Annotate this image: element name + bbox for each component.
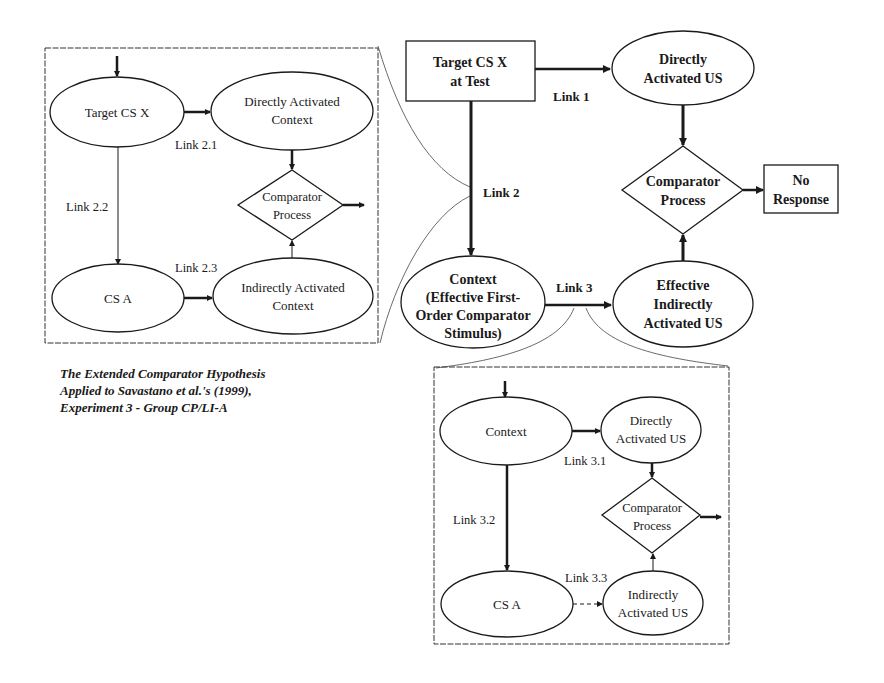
svg-text:Indirectly Activated: Indirectly Activated [241, 280, 345, 295]
svg-text:Process: Process [273, 208, 311, 222]
svg-text:Comparator: Comparator [622, 501, 683, 515]
svg-text:Indirectly: Indirectly [628, 587, 679, 602]
svg-text:Order Comparator: Order Comparator [415, 308, 530, 323]
svg-text:Indirectly: Indirectly [654, 297, 713, 312]
svg-text:CS A: CS A [493, 597, 521, 612]
node-comparator-process: Comparator Process [622, 146, 743, 234]
node-effective-indirectly-activated-us: Effective Indirectly Activated US [613, 261, 753, 347]
link-3-1-label: Link 3.1 [564, 454, 606, 468]
link3-inset: Context Directly Activated US Link 3.1 C… [434, 367, 729, 644]
node-directly-activated-context: Directly Activated Context [211, 72, 373, 150]
figure-caption: The Extended Comparator Hypothesis Appli… [60, 365, 360, 416]
link-3-3-label: Link 3.3 [565, 571, 607, 585]
node-indirectly-activated-context: Indirectly Activated Context [213, 258, 373, 334]
svg-text:Target CS X: Target CS X [85, 105, 150, 120]
svg-text:Directly: Directly [630, 413, 673, 428]
svg-text:Comparator: Comparator [262, 190, 323, 204]
svg-text:Stimulus): Stimulus) [444, 326, 502, 342]
link-2-3-label: Link 2.3 [175, 261, 217, 275]
caption-line-3: Experiment 3 - Group CP/LI-A [60, 399, 360, 416]
svg-text:Activated US: Activated US [618, 605, 688, 620]
link3-inset-frame [434, 367, 729, 644]
node-directly-activated-us-inset3: Directly Activated US [601, 397, 701, 463]
link-1-label: Link 1 [553, 89, 590, 104]
node-target-cs-x-at-test: Target CS X at Test [406, 41, 535, 101]
link-3-label: Link 3 [556, 280, 593, 295]
caption-line-2: Applied to Savastano et al.'s (1999), [60, 382, 360, 399]
svg-text:Effective: Effective [657, 278, 710, 293]
node-cs-a-inset3: CS A [441, 571, 573, 637]
svg-text:No: No [792, 173, 809, 188]
node-target-cs-x-inset: Target CS X [50, 77, 184, 147]
svg-text:(Effective First-: (Effective First- [426, 290, 521, 306]
svg-text:CS A: CS A [104, 291, 132, 306]
caption-line-1: The Extended Comparator Hypothesis [60, 365, 360, 382]
svg-text:at Test: at Test [450, 74, 490, 89]
node-indirectly-activated-us-inset3: Indirectly Activated US [603, 571, 703, 635]
svg-text:Context: Context [449, 272, 497, 287]
node-no-response: No Response [764, 165, 838, 213]
svg-text:Response: Response [773, 192, 829, 207]
svg-text:Process: Process [633, 519, 671, 533]
node-context-inset3: Context [440, 397, 572, 465]
svg-text:Context: Context [271, 112, 313, 127]
svg-text:Activated US: Activated US [616, 431, 686, 446]
svg-text:Context: Context [272, 298, 314, 313]
link-2-1-label: Link 2.1 [175, 138, 217, 152]
node-directly-activated-us: Directly Activated US [612, 31, 754, 105]
node-comparator-process-inset3: Comparator Process [602, 478, 700, 553]
svg-text:Context: Context [485, 424, 527, 439]
svg-text:Target CS X: Target CS X [433, 55, 507, 70]
svg-text:Activated US: Activated US [644, 71, 723, 86]
link-3-2-label: Link 3.2 [453, 513, 495, 527]
node-comparator-process-inset2: Comparator Process [238, 170, 343, 240]
node-cs-a-inset2: CS A [52, 264, 184, 332]
link2-inset: Target CS X Directly Activated Context L… [45, 48, 378, 343]
comparator-diagram: Target CS X Directly Activated Context L… [0, 0, 884, 683]
svg-text:Comparator: Comparator [646, 174, 721, 189]
link-2-2-label: Link 2.2 [66, 200, 108, 214]
svg-text:Directly Activated: Directly Activated [244, 94, 340, 109]
main-diagram: Target CS X at Test Directly Activated U… [401, 31, 838, 348]
svg-text:Activated US: Activated US [644, 316, 723, 331]
svg-text:Directly: Directly [659, 52, 707, 67]
node-context-effective-first-order-comparator: Context (Effective First- Order Comparat… [401, 256, 545, 348]
link-2-label: Link 2 [483, 185, 520, 200]
svg-text:Process: Process [661, 193, 706, 208]
